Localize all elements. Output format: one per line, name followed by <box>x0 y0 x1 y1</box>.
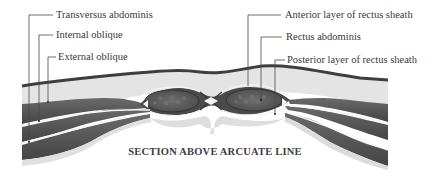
rectus-abdominis-left <box>145 90 199 112</box>
rectus-abdominis-right <box>226 89 282 111</box>
label-anterior-layer-rectus-sheath: Anterior layer of rectus sheath <box>285 9 413 21</box>
label-transversus-abdominis: Transversus abdominis <box>56 9 153 21</box>
label-external-oblique: External oblique <box>58 51 128 63</box>
figure-caption: SECTION ABOVE ARCUATE LINE <box>0 146 430 157</box>
label-posterior-layer-rectus-sheath: Posterior layer of rectus sheath <box>287 54 417 66</box>
anatomy-diagram: Transversus abdominis Internal oblique E… <box>0 0 435 180</box>
label-rectus-abdominis: Rectus abdominis <box>286 31 361 43</box>
extraperitoneal-fat <box>150 116 285 134</box>
label-internal-oblique: Internal oblique <box>56 29 123 41</box>
